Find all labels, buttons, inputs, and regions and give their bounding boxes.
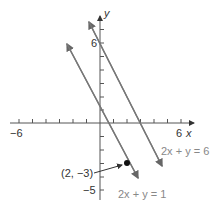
graph: y x −6 6 6 −5 2x + y = 6 2x + y = 1 (2, … [0,0,216,214]
line2-label: 2x + y = 1 [118,188,166,200]
x-axis-label: x [185,127,192,139]
y-min-label: −5 [83,184,96,196]
x-max-label: 6 [176,127,182,139]
point-pointer [94,165,122,173]
line1-label: 2x + y = 6 [161,145,209,157]
x-min-label: −6 [10,127,23,139]
y-max-label: 6 [91,37,97,49]
point-label: (2, −3) [61,167,93,179]
intersection-point [124,160,130,166]
y-axis-label: y [103,7,111,19]
